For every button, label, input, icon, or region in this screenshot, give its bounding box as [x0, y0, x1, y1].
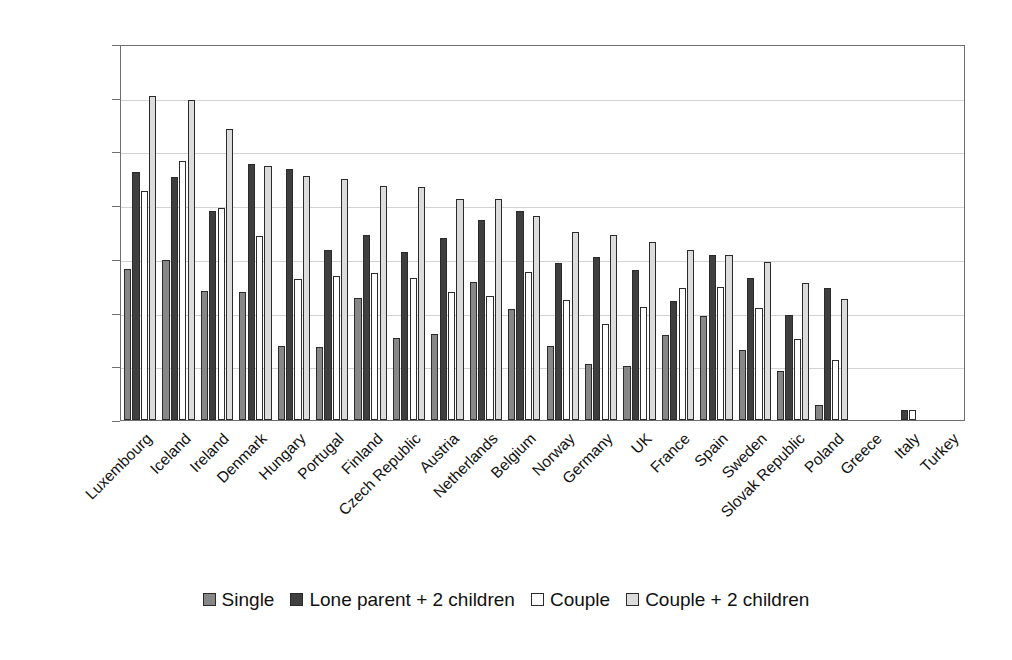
bar-group: [390, 46, 428, 420]
legend-item-label: Couple: [550, 590, 610, 609]
bar: [239, 292, 246, 420]
bar: [141, 191, 148, 420]
y-tick-mark: [112, 260, 120, 261]
bar: [124, 269, 131, 420]
legend-item-label: Single: [222, 590, 275, 609]
bar: [149, 96, 156, 420]
chart-figure: 010203040506070 LuxembourgIcelandIreland…: [0, 0, 1012, 660]
legend-swatch-icon: [203, 593, 216, 606]
bar-group: [659, 46, 697, 420]
legend-item-label: Couple + 2 children: [645, 590, 809, 609]
legend-swatch-icon: [626, 593, 639, 606]
bar-group: [889, 46, 927, 420]
bar: [248, 164, 255, 420]
bar-group: [812, 46, 850, 420]
bar-group: [736, 46, 774, 420]
chart-legend: SingleLone parent + 2 childrenCoupleCoup…: [0, 583, 1012, 615]
bar: [188, 100, 195, 420]
y-tick-mark: [112, 99, 120, 100]
legend-item[interactable]: Couple: [531, 590, 610, 609]
bar: [162, 260, 169, 420]
bar-group: [505, 46, 543, 420]
bar-group: [236, 46, 274, 420]
legend-swatch-icon: [290, 593, 303, 606]
y-tick-mark: [112, 152, 120, 153]
bar: [354, 298, 361, 420]
bar-group: [928, 46, 966, 420]
legend-swatch-icon: [531, 593, 544, 606]
bar: [495, 199, 502, 420]
bar: [380, 186, 387, 420]
bar: [764, 262, 771, 420]
bar: [440, 238, 447, 420]
legend-item[interactable]: Single: [203, 590, 275, 609]
y-tick-mark: [112, 206, 120, 207]
legend-item[interactable]: Couple + 2 children: [626, 590, 809, 609]
bar: [516, 211, 523, 420]
bar: [470, 282, 477, 420]
plot-area: [120, 45, 965, 421]
bar: [679, 288, 686, 420]
bar-group: [582, 46, 620, 420]
bar: [418, 187, 425, 420]
bar-group: [159, 46, 197, 420]
bar-group: [351, 46, 389, 420]
bar: [610, 235, 617, 420]
bar-group: [774, 46, 812, 420]
bar-group: [121, 46, 159, 420]
bar-group: [697, 46, 735, 420]
bar: [256, 236, 263, 420]
bar-group: [620, 46, 658, 420]
bar-group: [198, 46, 236, 420]
bar: [226, 129, 233, 420]
bar: [709, 255, 716, 420]
bar: [264, 166, 271, 420]
bar: [478, 220, 485, 420]
bar-series-layer: [121, 46, 964, 420]
bar: [755, 308, 762, 420]
bar: [662, 335, 669, 420]
bar: [670, 301, 677, 420]
bar: [218, 208, 225, 420]
bar: [179, 161, 186, 420]
bar: [132, 172, 139, 420]
y-tick-mark: [112, 367, 120, 368]
bar: [324, 250, 331, 420]
bar: [508, 309, 515, 420]
bar: [286, 169, 293, 420]
x-axis-labels: LuxembourgIcelandIrelandDenmarkHungaryPo…: [0, 421, 1012, 571]
bar: [593, 257, 600, 420]
y-tick-mark: [112, 45, 120, 46]
bar: [201, 291, 208, 420]
bar-group: [275, 46, 313, 420]
bar: [401, 252, 408, 420]
bar: [725, 255, 732, 420]
bar-group: [428, 46, 466, 420]
bar: [171, 177, 178, 420]
legend-item[interactable]: Lone parent + 2 children: [290, 590, 514, 609]
bar: [687, 250, 694, 420]
y-tick-mark: [112, 314, 120, 315]
bar-group: [313, 46, 351, 420]
bar: [341, 179, 348, 420]
y-axis: 010203040506070: [0, 0, 120, 470]
bar: [363, 235, 370, 420]
bar: [209, 211, 216, 420]
legend-item-label: Lone parent + 2 children: [309, 590, 514, 609]
bar-group: [544, 46, 582, 420]
